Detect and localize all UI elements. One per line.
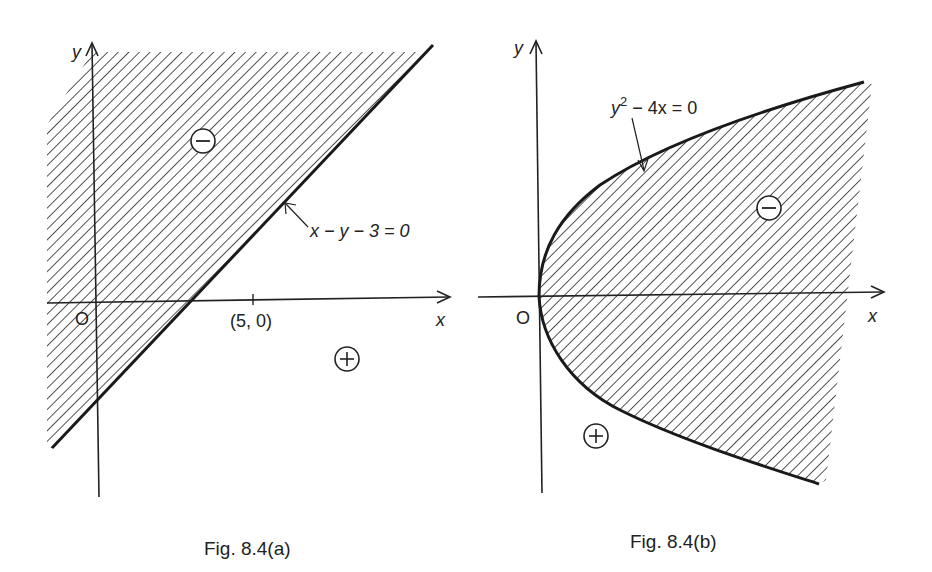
- tick-label-5-0: (5, 0): [230, 311, 272, 331]
- diagram-canvas: y x O (5, 0) x − y − 3 = 0 Fig. 8.4(a): [0, 0, 932, 572]
- equation-leader: [286, 204, 308, 227]
- figure-caption-a: Fig. 8.4(a): [204, 538, 291, 559]
- boundary-equation-label: y2 − 4x = 0: [609, 94, 697, 118]
- x-axis-label: x: [867, 306, 878, 326]
- boundary-equation-label: x − y − 3 = 0: [309, 221, 410, 241]
- figure-b: y x O y2 − 4x = 0 Fig. 8.4(b): [478, 38, 884, 552]
- x-axis-label: x: [435, 310, 446, 330]
- y-axis-label: y: [70, 42, 82, 62]
- equation-rest: − 4x = 0: [627, 98, 697, 118]
- origin-label: O: [516, 308, 530, 328]
- equation-exponent: 2: [620, 94, 627, 109]
- minus-sign-marker: [757, 196, 781, 220]
- plus-sign-marker: [584, 424, 608, 448]
- figure-caption-b: Fig. 8.4(b): [630, 531, 717, 552]
- minus-sign-marker: [191, 129, 215, 153]
- origin-label: O: [75, 309, 89, 329]
- shaded-region-negative: [539, 82, 872, 484]
- figure-a: y x O (5, 0) x − y − 3 = 0 Fig. 8.4(a): [47, 42, 450, 559]
- y-axis-label: y: [512, 38, 524, 58]
- plus-sign-marker: [335, 347, 359, 371]
